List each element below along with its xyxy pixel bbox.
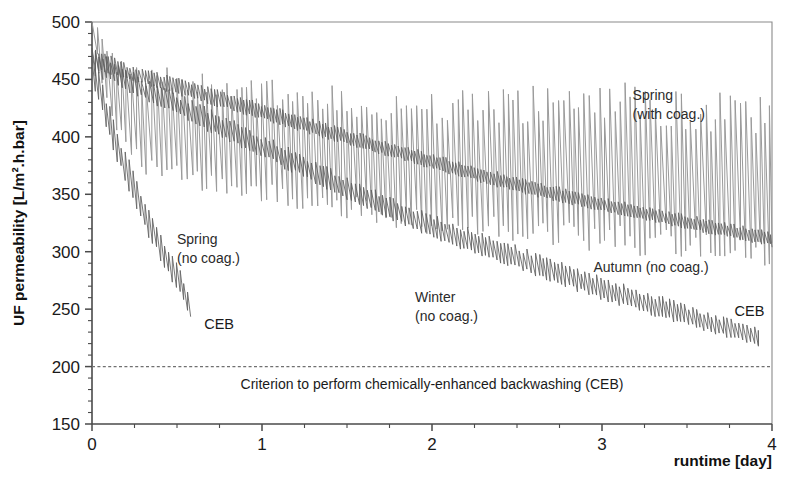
ceb-label-left-line1: CEB xyxy=(204,316,234,332)
y-tick-label: 450 xyxy=(52,70,80,89)
chart-figure: 15020025030035040045050001234runtime [da… xyxy=(0,0,790,484)
winter-no-coag-label: Winter(no coag.) xyxy=(415,289,478,324)
ceb-label-right: CEB xyxy=(735,303,765,319)
winter-no-coag-label-line1: Winter xyxy=(415,289,456,305)
spring-no-coag-label: Spring(no coag.) xyxy=(177,231,240,266)
spring-with-coag-label: Spring(with coag.) xyxy=(633,87,705,122)
x-tick-label: 0 xyxy=(87,435,96,454)
autumn-no-coag-label: Autumn (no coag.) xyxy=(594,259,709,275)
ceb-label-left: CEB xyxy=(204,316,234,332)
x-tick-label: 2 xyxy=(427,435,436,454)
uf-permeability-chart: 15020025030035040045050001234runtime [da… xyxy=(0,0,790,484)
autumn-no-coag-label-line1: Autumn (no coag.) xyxy=(594,259,709,275)
spring-with-coag-label-line2: (with coag.) xyxy=(633,106,705,122)
series-spring-with-coag xyxy=(92,22,772,265)
y-tick-label: 400 xyxy=(52,128,80,147)
spring-no-coag-label-line2: (no coag.) xyxy=(177,250,240,266)
y-tick-label: 250 xyxy=(52,300,80,319)
y-axis-title: UF permeability [L/m².h.bar] xyxy=(10,120,27,326)
x-tick-label: 3 xyxy=(597,435,606,454)
x-tick-label: 1 xyxy=(257,435,266,454)
y-tick-label: 350 xyxy=(52,185,80,204)
y-tick-label: 150 xyxy=(52,415,80,434)
y-tick-label: 200 xyxy=(52,358,80,377)
x-axis-title: runtime [day] xyxy=(674,452,772,469)
ceb-criterion-label: Criterion to perform chemically-enhanced… xyxy=(241,376,624,392)
y-tick-label: 300 xyxy=(52,243,80,262)
y-tick-label: 500 xyxy=(52,13,80,32)
winter-no-coag-label-line2: (no coag.) xyxy=(415,308,478,324)
spring-no-coag-label-line1: Spring xyxy=(177,231,217,247)
spring-with-coag-label-line1: Spring xyxy=(633,87,673,103)
ceb-label-right-line1: CEB xyxy=(735,303,765,319)
